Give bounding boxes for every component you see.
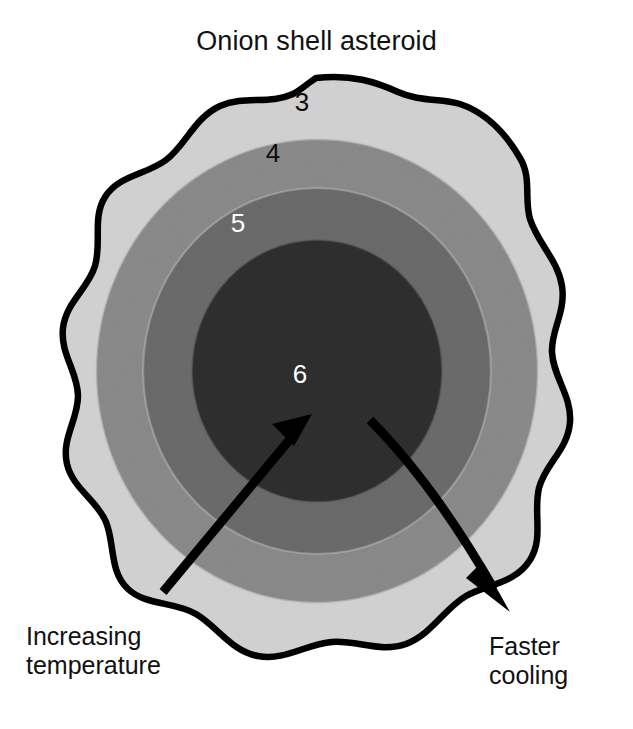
shell-label-3: 3 — [285, 89, 319, 115]
faster-cooling-caption-line1: Faster — [489, 632, 629, 661]
shell-label-5: 5 — [221, 210, 255, 236]
faster-cooling-caption: Faster cooling — [489, 632, 629, 689]
onion-shell-asteroid-figure: Onion shell asteroid — [0, 0, 633, 729]
shell-label-4: 4 — [256, 140, 290, 166]
shell-label-6: 6 — [283, 361, 317, 387]
increasing-temperature-caption: Increasing temperature — [26, 622, 236, 679]
increasing-temperature-caption-line1: Increasing — [26, 622, 236, 651]
increasing-temperature-caption-line2: temperature — [26, 651, 236, 680]
faster-cooling-caption-line2: cooling — [489, 661, 629, 690]
